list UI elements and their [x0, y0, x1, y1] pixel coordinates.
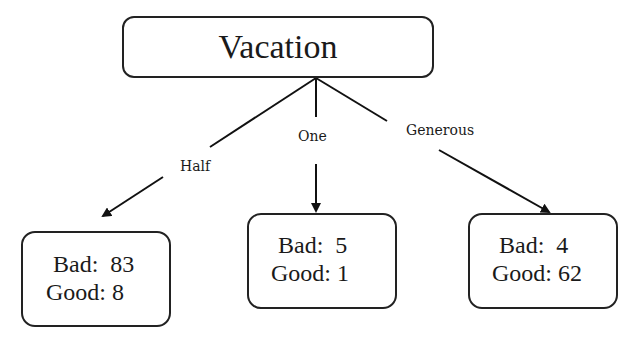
- leaf-good-count: Good: 1: [271, 261, 349, 285]
- edge-half: [103, 78, 316, 216]
- leaf-bad-count: Bad: 5: [278, 233, 347, 257]
- leaf-bad-count: Bad: 83: [53, 252, 134, 276]
- edge-label-generous: Generous: [406, 122, 474, 138]
- root-node-label: Vacation: [124, 28, 432, 66]
- edge-label-one: One: [298, 128, 327, 144]
- edge-label-half: Half: [180, 158, 210, 174]
- leaf-bad-count: Bad: 4: [499, 233, 568, 257]
- leaf-node-half: Bad: 83 Good: 8: [21, 231, 171, 327]
- leaf-node-one: Bad: 5 Good: 1: [247, 213, 397, 309]
- leaf-node-generous: Bad: 4 Good: 62: [468, 213, 618, 309]
- leaf-good-count: Good: 8: [46, 280, 124, 304]
- leaf-good-count: Good: 62: [492, 261, 582, 285]
- root-node-vacation: Vacation: [122, 16, 434, 78]
- edge-generous: [316, 78, 549, 212]
